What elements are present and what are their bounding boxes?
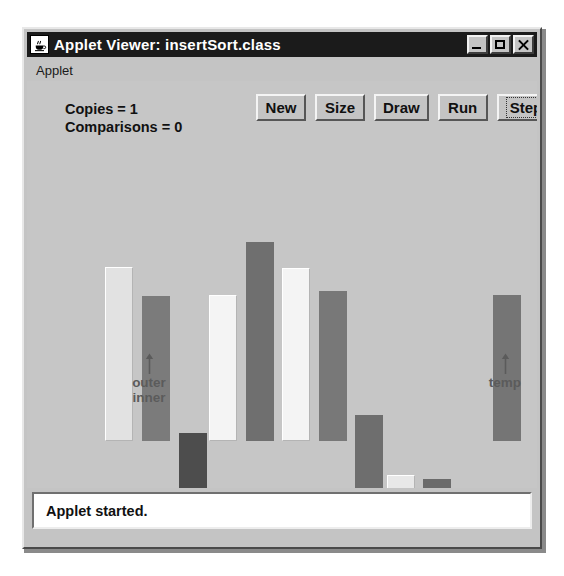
draw-button[interactable]: Draw	[374, 94, 429, 121]
chart-bar	[179, 433, 207, 488]
chart-bar	[282, 268, 310, 441]
chart-bar	[423, 479, 451, 488]
chart-bar	[319, 291, 347, 441]
close-icon[interactable]	[513, 35, 534, 54]
maximize-icon[interactable]	[490, 35, 511, 54]
size-button[interactable]: Size	[315, 94, 365, 121]
pointer-label: inner	[109, 390, 189, 405]
window-title: Applet Viewer: insertSort.class	[54, 36, 467, 53]
applet-panel: Copies = 1 Comparisons = 0 New Size Draw…	[27, 81, 537, 488]
stats-readout: Copies = 1 Comparisons = 0	[65, 100, 182, 136]
draw-button-label: Draw	[383, 99, 420, 116]
title-bar[interactable]: Applet Viewer: insertSort.class	[27, 32, 537, 57]
menu-bar: Applet	[27, 59, 537, 81]
chart-bar	[355, 415, 383, 488]
temp-pointer: temp	[465, 353, 537, 390]
new-button-label: New	[266, 99, 297, 116]
sort-bar-chart	[27, 81, 537, 488]
pointer-label: outer	[109, 375, 189, 390]
comparisons-label: Comparisons = 0	[65, 118, 182, 136]
size-button-label: Size	[325, 99, 355, 116]
copies-label: Copies = 1	[65, 100, 182, 118]
status-text: Applet started.	[34, 503, 148, 519]
applet-viewer-window: Applet Viewer: insertSort.class Applet C…	[22, 27, 542, 549]
pointer-label: temp	[465, 375, 537, 390]
chart-bar	[387, 475, 415, 488]
window-controls	[467, 35, 534, 54]
screen: Applet Viewer: insertSort.class Applet C…	[0, 0, 564, 576]
step-button-label: Step	[506, 97, 537, 118]
new-button[interactable]: New	[256, 94, 306, 121]
minimize-icon[interactable]	[467, 35, 488, 54]
chart-bar	[246, 242, 274, 441]
applet-button-bar: New Size Draw Run Step	[256, 94, 537, 121]
run-button[interactable]: Run	[438, 94, 488, 121]
java-coffee-cup-icon	[30, 35, 49, 54]
status-bar: Applet started.	[32, 492, 532, 529]
menu-item-applet[interactable]: Applet	[30, 62, 78, 79]
run-button-label: Run	[448, 99, 477, 116]
outer-inner-pointer: outerinner	[109, 353, 189, 405]
chart-bar	[209, 295, 237, 441]
step-button[interactable]: Step	[497, 94, 537, 121]
